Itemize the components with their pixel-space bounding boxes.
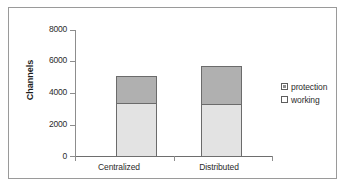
y-tick-label-0: 0 [33,152,67,161]
x-tick-label-distributed: Distributed [189,162,249,172]
chart-frame: Channels 0 2000 4000 6000 8000 Centr [8,7,337,179]
x-tick-right [272,156,273,161]
y-tick-2000 [70,125,75,126]
bar-distributed[interactable] [201,30,242,157]
y-tick-label-4000: 4000 [33,88,67,97]
bar-segment-working[interactable] [201,104,242,157]
x-tick-label-centralized: Centralized [89,162,149,172]
y-tick-4000 [70,93,75,94]
legend-swatch-working-icon [281,96,288,103]
y-tick-8000 [70,30,75,31]
y-tick-label-8000: 8000 [33,25,67,34]
x-tick-middle [174,156,175,161]
bar-segment-protection[interactable] [116,76,157,104]
legend-swatch-protection-icon [281,83,288,90]
y-axis-line [75,30,76,157]
y-tick-label-6000: 6000 [33,56,67,65]
legend-item-protection[interactable]: protection [281,80,343,93]
chart-figure: Channels 0 2000 4000 6000 8000 Centr [0,0,346,187]
bar-segment-protection[interactable] [201,66,242,106]
y-tick-label-2000: 2000 [33,120,67,129]
legend-label-working: working [291,95,320,105]
bar-segment-working[interactable] [116,103,157,157]
legend-label-protection: protection [291,82,327,92]
x-tick-left [75,156,76,161]
legend-item-working[interactable]: working [281,93,343,106]
chart-legend: protection working [281,80,343,106]
bar-centralized[interactable] [116,30,157,157]
y-tick-6000 [70,61,75,62]
y-tick-labels: 0 2000 4000 6000 8000 [31,8,67,187]
